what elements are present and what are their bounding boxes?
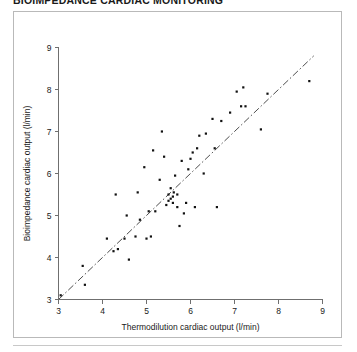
data-point — [185, 202, 187, 204]
data-point — [181, 160, 183, 162]
data-point — [174, 175, 176, 177]
data-point — [154, 210, 156, 212]
data-point — [112, 250, 114, 252]
data-point — [240, 105, 242, 107]
data-point — [139, 219, 141, 221]
data-point — [172, 202, 174, 204]
x-axis: 3456789 — [56, 300, 325, 316]
data-point — [172, 196, 174, 198]
data-point — [216, 206, 218, 208]
data-point — [173, 191, 175, 193]
data-point — [84, 284, 86, 286]
data-point — [183, 212, 185, 214]
data-point — [176, 206, 178, 208]
data-point — [123, 238, 125, 240]
y-tick-label: 5 — [47, 211, 52, 221]
data-point — [145, 238, 147, 240]
x-tick-label: 8 — [276, 306, 281, 316]
data-point — [137, 191, 139, 193]
y-tick-label: 3 — [47, 295, 52, 305]
data-point — [167, 193, 169, 195]
data-point — [163, 156, 165, 158]
data-point — [150, 235, 152, 237]
data-point — [170, 198, 172, 200]
data-point — [126, 214, 128, 216]
y-axis-title: Bioimpedance cardiac output (l/min) — [22, 106, 32, 242]
data-point — [134, 235, 136, 237]
data-point — [117, 248, 119, 250]
data-point — [260, 128, 262, 130]
data-point — [205, 133, 207, 135]
data-point — [236, 91, 238, 93]
data-point — [189, 158, 191, 160]
data-point — [194, 206, 196, 208]
scatter-plot: 3456789 3456789 Thermodilution cardiac o… — [0, 0, 357, 352]
data-point — [165, 204, 167, 206]
y-tick-label: 4 — [47, 253, 52, 263]
chart-canvas: 3456789 3456789 Thermodilution cardiac o… — [0, 0, 357, 352]
x-tick-label: 4 — [100, 306, 105, 316]
y-tick-label: 8 — [47, 85, 52, 95]
x-tick-label: 9 — [320, 306, 325, 316]
data-point — [244, 105, 246, 107]
x-tick-label: 7 — [232, 306, 237, 316]
x-tick-label: 5 — [144, 306, 149, 316]
y-tick-label: 7 — [47, 127, 52, 137]
data-point — [198, 135, 200, 137]
data-point — [214, 147, 216, 149]
x-tick-label: 6 — [188, 306, 193, 316]
x-axis-title: Thermodilution cardiac output (l/min) — [122, 322, 260, 332]
line-of-identity — [59, 56, 314, 300]
data-point — [159, 179, 161, 181]
data-points — [60, 80, 311, 296]
data-point — [187, 168, 189, 170]
data-point — [115, 193, 117, 195]
data-point — [220, 120, 222, 122]
data-point — [167, 200, 169, 202]
data-point — [170, 187, 172, 189]
y-axis: 3456789 — [47, 43, 59, 305]
data-point — [128, 259, 130, 261]
data-point — [242, 86, 244, 88]
data-point — [143, 166, 145, 168]
data-point — [176, 193, 178, 195]
data-point — [106, 238, 108, 240]
data-point — [148, 210, 150, 212]
data-point — [178, 225, 180, 227]
data-point — [308, 80, 310, 82]
data-point — [203, 172, 205, 174]
data-point — [82, 265, 84, 267]
x-tick-label: 3 — [56, 306, 61, 316]
data-point — [161, 130, 163, 132]
data-point — [196, 147, 198, 149]
data-point — [152, 149, 154, 151]
data-point — [192, 151, 194, 153]
data-point — [266, 93, 268, 95]
data-point — [229, 112, 231, 114]
data-point — [60, 294, 62, 296]
identity-line — [59, 56, 314, 300]
data-point — [211, 118, 213, 120]
y-tick-label: 6 — [47, 169, 52, 179]
y-tick-label: 9 — [47, 43, 52, 53]
